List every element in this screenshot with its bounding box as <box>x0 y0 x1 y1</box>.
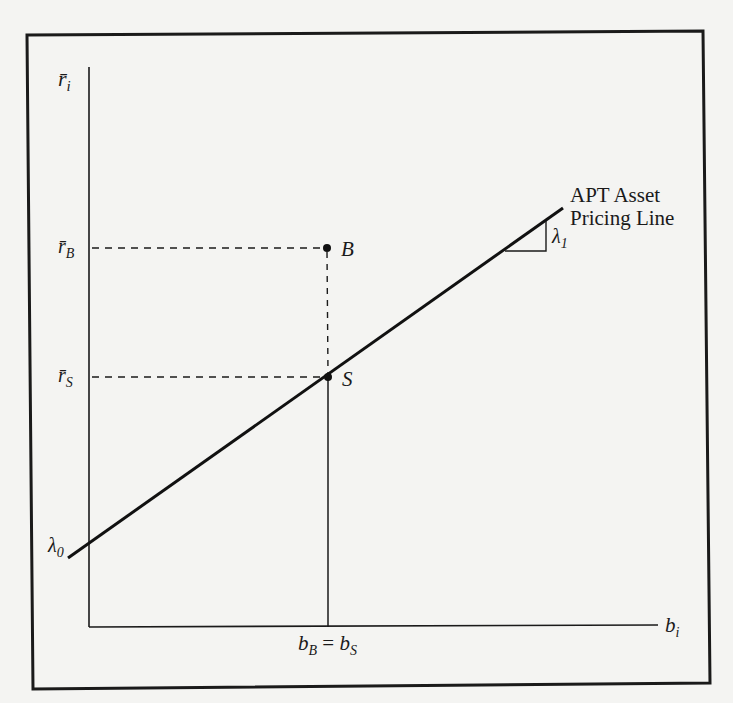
x-axis <box>89 625 658 627</box>
point-B-marker <box>323 244 331 252</box>
lambda0-label: λ0 <box>47 534 64 560</box>
apt-diagram: r̄i r̄B r̄S B S λ0 λ1 APT Asset Pricing … <box>0 0 733 703</box>
bB-equals-bS-label: bB = bS <box>298 631 357 658</box>
B-vertical-dashed <box>327 252 328 374</box>
y-axis-label: r̄i <box>58 66 71 94</box>
point-S-label: S <box>342 367 353 391</box>
point-B-label: B <box>341 237 354 261</box>
outer-frame <box>27 31 710 689</box>
rB-label: r̄B <box>58 235 75 261</box>
rS-label: r̄S <box>58 364 73 390</box>
x-axis-label: bi <box>665 613 680 640</box>
lambda1-label: λ1 <box>551 225 568 251</box>
line-label-2: Pricing Line <box>570 206 674 230</box>
line-label-1: APT Asset <box>570 183 660 207</box>
apt-pricing-line <box>68 208 563 558</box>
point-S-marker <box>324 373 332 381</box>
